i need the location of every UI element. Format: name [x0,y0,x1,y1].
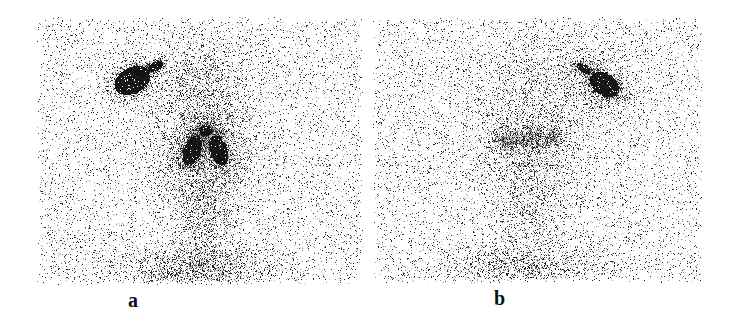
scintigraphy-image-b [372,16,704,284]
scintigraphy-panel-b [372,16,704,284]
scintigraphy-panel-a [36,16,364,286]
panel-label-b: b [494,288,505,308]
panel-label-a: a [128,290,138,310]
scintigraphy-image-a [36,16,364,286]
